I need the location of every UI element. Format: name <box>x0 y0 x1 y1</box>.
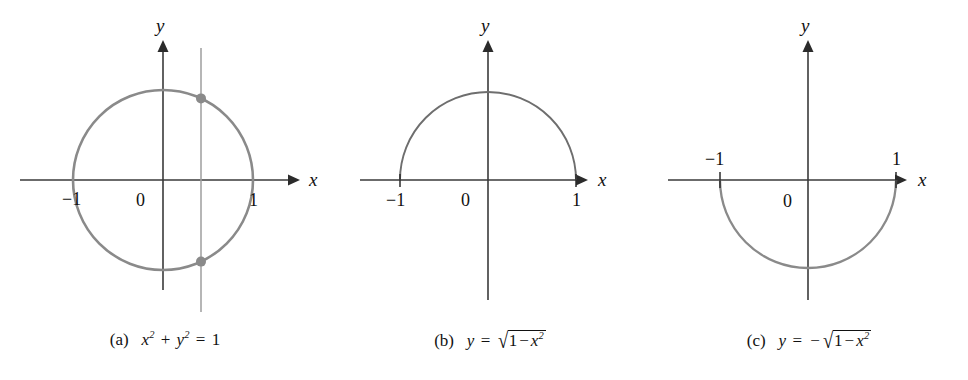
caption-c-var: x <box>856 331 864 350</box>
caption-c-radical: √1−x2 <box>822 330 871 352</box>
caption-c: (c) y = − √1−x2 <box>650 330 968 352</box>
panel-a: x y −1 0 1 (a) x2 + y2 = 1 <box>0 0 330 380</box>
y-axis-label: y <box>479 15 490 36</box>
caption-c-equals: = <box>790 331 804 350</box>
caption-a-tag: (a) <box>110 330 129 349</box>
y-axis-arrow <box>483 40 494 52</box>
origin-label: 0 <box>461 190 470 210</box>
caption-b-one: 1 <box>509 331 518 350</box>
caption-c-exp: 2 <box>864 331 869 342</box>
x-tick-label-pos1: 1 <box>892 149 901 169</box>
caption-b-exp: 2 <box>539 331 544 342</box>
caption-c-tag: (c) <box>747 331 766 350</box>
caption-b-equals: = <box>479 331 493 350</box>
caption-b-radical: √1−x2 <box>497 330 546 352</box>
panel-c: x y −1 1 0 (c) y = − √1−x2 <box>650 0 968 380</box>
intersection-point-upper <box>196 93 206 103</box>
plot-a: x y −1 0 1 <box>0 0 330 330</box>
vertical-line-test-figure: x y −1 0 1 (a) x2 + y2 = 1 <box>0 0 968 380</box>
panel-b: x y −1 0 1 (b) y = √1−x2 <box>330 0 650 380</box>
x-tick-label-neg1: −1 <box>62 189 81 209</box>
caption-c-negation: − <box>808 331 822 350</box>
plot-b: x y −1 0 1 <box>330 0 650 330</box>
caption-a: (a) x2 + y2 = 1 <box>0 330 330 350</box>
origin-label: 0 <box>136 190 145 210</box>
x-tick-label-pos1: 1 <box>572 190 581 210</box>
intersection-point-lower <box>196 257 206 267</box>
x-axis-arrow <box>576 175 588 186</box>
y-axis-label: y <box>799 15 810 36</box>
caption-b-radicand: 1−x2 <box>508 330 546 351</box>
x-axis-label: x <box>308 169 318 190</box>
origin-label: 0 <box>783 191 792 211</box>
x-tick-label-neg1: −1 <box>705 149 724 169</box>
caption-a-rhs: 1 <box>212 330 221 349</box>
radical-sign-icon: √ <box>497 330 507 352</box>
caption-c-radicand: 1−x2 <box>833 330 871 351</box>
caption-c-minus: − <box>843 331 857 350</box>
caption-c-lhs: y <box>778 331 786 350</box>
caption-b-var: x <box>531 331 539 350</box>
x-axis-arrow <box>288 175 300 186</box>
caption-b-tag: (b) <box>434 331 454 350</box>
caption-b: (b) y = √1−x2 <box>330 330 650 352</box>
caption-b-lhs: y <box>467 331 475 350</box>
caption-a-exp2: 2 <box>184 329 189 340</box>
caption-a-plus: + <box>159 330 173 349</box>
y-axis-label: y <box>154 15 165 36</box>
caption-b-minus: − <box>517 331 531 350</box>
caption-a-exp1: 2 <box>149 329 154 340</box>
plot-c: x y −1 1 0 <box>650 0 968 330</box>
x-tick-label-pos1: 1 <box>249 190 258 210</box>
x-tick-label-neg1: −1 <box>386 190 405 210</box>
y-axis-arrow <box>158 40 169 52</box>
y-axis-arrow <box>803 40 814 52</box>
x-axis-label: x <box>597 169 607 190</box>
x-axis-label: x <box>917 169 927 190</box>
caption-a-equals: = <box>194 330 208 349</box>
radical-sign-icon: √ <box>823 330 833 352</box>
caption-c-one: 1 <box>834 331 843 350</box>
